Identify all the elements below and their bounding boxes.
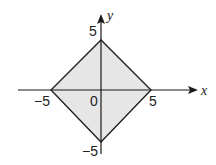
coordinate-diagram: x y 5 −5 0 5 −5 (0, 0, 216, 165)
y-tick-label-pos: 5 (89, 23, 97, 39)
y-axis-label: y (105, 8, 114, 23)
origin-label: 0 (90, 93, 98, 109)
x-tick-label-pos: 5 (149, 93, 157, 109)
y-tick-label-neg: −5 (82, 143, 98, 159)
x-tick-label-neg: −5 (34, 93, 50, 109)
x-axis-label: x (200, 83, 208, 98)
